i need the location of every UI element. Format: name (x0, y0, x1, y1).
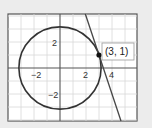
point-label: (3, 1) (105, 46, 128, 57)
y-tick-label: −2 (48, 90, 58, 100)
y-tick-label: 2 (52, 38, 57, 48)
x-tick-label: −2 (31, 70, 41, 80)
graph-figure: −2242−2 (3, 1) (0, 0, 152, 128)
x-tick-label: 4 (109, 70, 114, 80)
point-marker (96, 52, 101, 57)
x-tick-label: 2 (83, 70, 88, 80)
